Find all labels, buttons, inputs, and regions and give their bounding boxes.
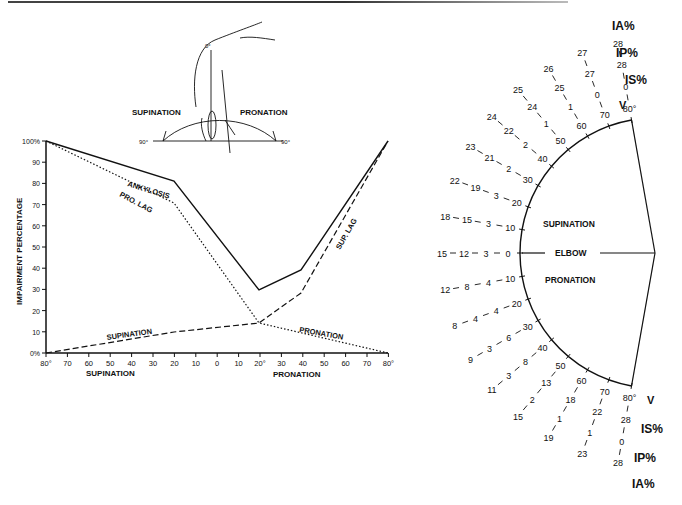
pie-value: 25 [554, 83, 564, 93]
y-tick-label: 10 [32, 329, 40, 336]
y-tick-label: 40 [32, 265, 40, 272]
pie-value: 60 [576, 376, 586, 386]
pie-value: 24 [527, 102, 537, 112]
pie-value: 30 [523, 322, 533, 332]
pie-value: 3 [483, 249, 488, 259]
x-tick-label: 50 [106, 359, 114, 368]
x-axis-label-supination: SUPINATION [86, 369, 135, 378]
pie-value: 19 [471, 183, 481, 193]
x-tick-label: 30 [149, 359, 157, 368]
x-tick-label: 80° [383, 359, 394, 368]
pie-value: 80° [623, 393, 637, 403]
inset-right-90: 90° [281, 139, 291, 145]
pie-pronation-label: PRONATION [545, 275, 595, 285]
inset-supination-label: SUPINATION [132, 108, 181, 117]
pie-value: 19 [543, 433, 553, 443]
pie-value: 3 [487, 344, 492, 354]
pie-value: 15 [437, 249, 447, 259]
sup-lag-annotation: SUP. LAG [334, 217, 359, 251]
pie-value: 18 [565, 395, 575, 405]
pie-value: 50 [556, 136, 566, 146]
x-tick-label: 20° [254, 359, 265, 368]
pie-value: 6 [506, 333, 511, 343]
pie-value: 8 [464, 282, 469, 292]
x-axis-label-pronation: PRONATION [273, 370, 321, 379]
header-ia-top: IA% [612, 19, 635, 33]
y-axis-ticks: 0%102030405060708090100% [22, 138, 46, 357]
pie-value: 4 [486, 278, 491, 288]
pie-value: 3 [506, 371, 511, 381]
pie-value: 2 [523, 140, 528, 150]
pie-value: 30 [523, 175, 533, 185]
pie-value: 24 [487, 112, 497, 122]
inset-pronation-label: PRONATION [240, 108, 288, 117]
x-tick-label: 40 [127, 359, 135, 368]
x-tick-label: 0 [215, 359, 219, 368]
x-tick-label: 60 [341, 359, 349, 368]
pie-value: 21 [485, 153, 495, 163]
pie-value: 50 [556, 361, 566, 371]
x-axis-ticks: 80°7060504030201001020°304050607080° [40, 353, 394, 368]
header-ip-bottom: IP% [634, 451, 656, 465]
x-tick-label: 60 [85, 359, 93, 368]
header-is-top: IS% [625, 73, 647, 87]
pie-value: 23 [577, 449, 587, 459]
pie-value: 13 [541, 378, 551, 388]
pie-value: 10 [505, 223, 515, 233]
pronation-curve-annotation: PRONATION [299, 325, 344, 342]
pie-value: 2 [506, 164, 511, 174]
pie-value: 1 [587, 428, 592, 438]
pie-value: 11 [487, 385, 496, 395]
pie-value: 15 [462, 215, 472, 225]
pie-value: 23 [466, 142, 476, 152]
y-tick-label: 90 [32, 159, 40, 166]
pie-value: 12 [459, 249, 469, 259]
pie-value: 22 [504, 126, 514, 136]
pie-value: 22 [592, 407, 602, 417]
y-tick-label: 30 [32, 286, 40, 293]
x-tick-label: 10 [192, 359, 200, 368]
y-axis-label: IMPAIRMENT PERCENTAGE [15, 197, 24, 305]
x-tick-label: 80° [40, 359, 51, 368]
header-is-bottom: IS% [641, 422, 663, 436]
y-tick-label: 80 [32, 180, 40, 187]
pie-value: 27 [585, 69, 595, 79]
forearm-inset [153, 22, 283, 153]
y-tick-label: 100% [22, 138, 40, 145]
pie-value: 9 [468, 355, 473, 365]
pie-value: 40 [537, 154, 547, 164]
pie-value: 0 [505, 249, 510, 259]
x-tick-label: 30 [277, 359, 285, 368]
pie-value: 3 [494, 191, 499, 201]
pie-value: 0 [619, 437, 624, 447]
y-tick-label: 50 [32, 244, 40, 251]
x-tick-label: 20 [170, 359, 178, 368]
pie-value: 1 [557, 414, 562, 424]
pie-value: 28 [613, 458, 623, 468]
inset-zero-label: 0° [205, 43, 211, 49]
pie-value: 70 [600, 110, 610, 120]
x-tick-label: 40 [299, 359, 307, 368]
pie-value: 28 [621, 415, 631, 425]
pie-value: 15 [513, 412, 523, 422]
x-tick-label: 10 [234, 359, 242, 368]
pie-value: 22 [450, 176, 460, 186]
pie-value: 3 [486, 219, 491, 229]
pie-elbow-label: ELBOW [555, 248, 588, 258]
pie-value: 8 [523, 357, 528, 367]
x-tick-label: 70 [63, 359, 71, 368]
line-chart: 0%102030405060708090100% 80°706050403020… [15, 138, 394, 379]
y-tick-label: 0% [30, 350, 40, 357]
y-tick-label: 60 [32, 223, 40, 230]
header-ia-bottom: IA% [632, 477, 655, 491]
pie-value: 28 [617, 60, 627, 70]
y-tick-label: 20 [32, 308, 40, 315]
pie-supination-label: SUPINATION [543, 219, 595, 229]
pie-value: 40 [537, 343, 547, 353]
pie-value: 4 [473, 314, 478, 324]
pie-value: 1 [544, 119, 549, 129]
header-v-top: V [619, 99, 627, 111]
x-tick-label: 70 [363, 359, 371, 368]
x-tick-label: 50 [320, 359, 328, 368]
y-tick-label: 70 [32, 202, 40, 209]
